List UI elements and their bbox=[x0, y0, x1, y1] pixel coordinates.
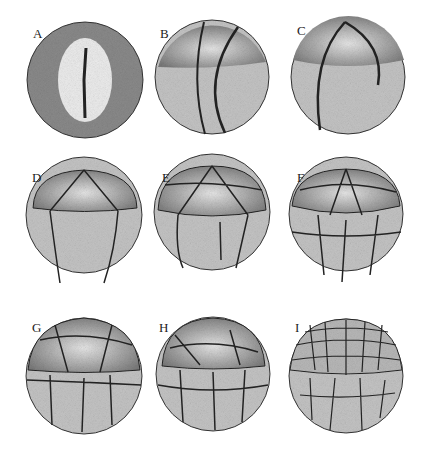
panel-label-h: H bbox=[159, 320, 168, 336]
panel-label-f: F bbox=[297, 170, 304, 186]
panel-label-a: A bbox=[33, 26, 42, 42]
panel-a bbox=[27, 22, 143, 138]
cleavage-figure bbox=[0, 0, 426, 457]
panel-label-c: C bbox=[297, 23, 306, 39]
panel-label-i: I bbox=[295, 320, 299, 336]
panel-b bbox=[155, 20, 269, 134]
panel-i bbox=[289, 319, 403, 433]
panel-c bbox=[291, 16, 405, 134]
panel-label-d: D bbox=[32, 170, 41, 186]
panel-g bbox=[26, 318, 142, 434]
panel-h bbox=[156, 317, 270, 431]
panel-f bbox=[289, 157, 403, 282]
panel-label-e: E bbox=[162, 170, 170, 186]
panel-e bbox=[154, 154, 270, 270]
panel-label-g: G bbox=[32, 320, 41, 336]
panel-label-b: B bbox=[160, 26, 169, 42]
panel-d bbox=[26, 157, 142, 283]
